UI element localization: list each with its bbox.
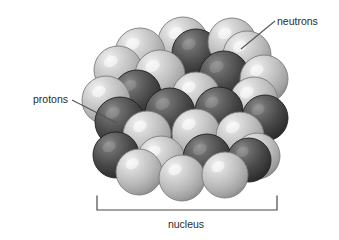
neutrons-label: neutrons bbox=[277, 15, 318, 27]
neutron-sphere bbox=[116, 149, 162, 195]
particle-cluster bbox=[82, 17, 288, 201]
protons-label: protons bbox=[33, 93, 68, 105]
particle-neutron bbox=[159, 155, 205, 201]
particle-neutron bbox=[202, 152, 248, 198]
nucleus-diagram-figure: neutrons protons nucleus bbox=[0, 0, 339, 240]
particle-neutron bbox=[116, 149, 162, 195]
neutron-sphere bbox=[202, 152, 248, 198]
nucleus-label: nucleus bbox=[168, 218, 204, 230]
neutron-sphere bbox=[159, 155, 205, 201]
figure-canvas: neutrons protons nucleus bbox=[0, 0, 339, 240]
